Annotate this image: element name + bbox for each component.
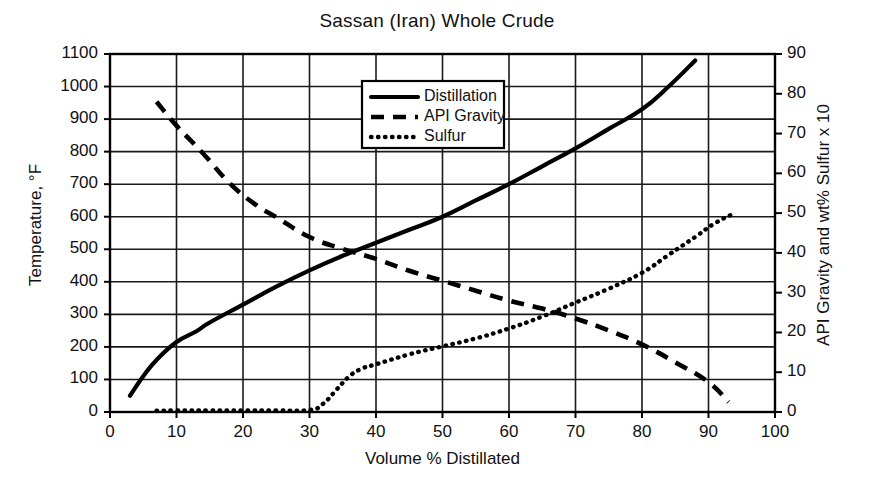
legend-box	[362, 81, 504, 148]
tick-label-x: 20	[213, 422, 273, 442]
tick-label-y-left: 600	[34, 206, 98, 226]
tick-label-y-left: 0	[34, 401, 98, 421]
tick-label-y-left: 900	[34, 108, 98, 128]
tick-label-y-right: 70	[787, 123, 833, 143]
tick-label-y-right: 10	[787, 361, 833, 381]
tick-label-y-left: 1000	[34, 76, 98, 96]
tick-label-x: 80	[612, 422, 672, 442]
tick-label-y-left: 1100	[34, 43, 98, 63]
tick-label-y-left: 700	[34, 173, 98, 193]
tick-label-x: 60	[479, 422, 539, 442]
tick-label-y-left: 500	[34, 238, 98, 258]
tick-label-y-left: 100	[34, 368, 98, 388]
tick-label-y-right: 30	[787, 282, 833, 302]
tick-label-y-left: 300	[34, 303, 98, 323]
tick-label-y-left: 400	[34, 271, 98, 291]
tick-label-y-right: 50	[787, 202, 833, 222]
plot-canvas	[0, 0, 874, 483]
tick-label-y-right: 80	[787, 83, 833, 103]
tick-label-x: 40	[346, 422, 406, 442]
tick-label-y-right: 40	[787, 242, 833, 262]
tick-label-x: 90	[679, 422, 739, 442]
chart-figure: Sassan (Iran) Whole Crude Temperature, °…	[0, 0, 874, 483]
tick-label-x: 100	[745, 422, 805, 442]
tick-label-y-right: 0	[787, 401, 833, 421]
tick-label-x: 50	[413, 422, 473, 442]
tick-label-y-right: 20	[787, 321, 833, 341]
tick-label-x: 10	[147, 422, 207, 442]
tick-label-y-right: 90	[787, 43, 833, 63]
tick-label-y-left: 200	[34, 336, 98, 356]
tick-label-x: 30	[280, 422, 340, 442]
tick-label-x: 0	[80, 422, 140, 442]
tick-label-y-right: 60	[787, 162, 833, 182]
tick-label-y-left: 800	[34, 141, 98, 161]
tick-label-x: 70	[546, 422, 606, 442]
